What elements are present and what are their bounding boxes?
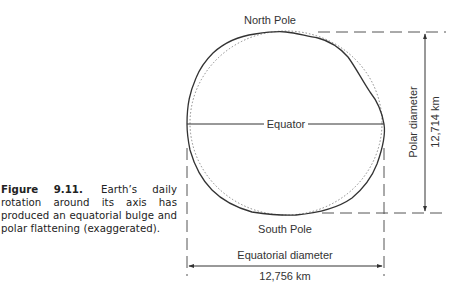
north-pole-label: North Pole xyxy=(244,14,296,26)
earth-shape-diagram: Equator North Pole South Pole Polar diam… xyxy=(0,0,472,298)
south-pole-label: South Pole xyxy=(258,223,312,235)
equatorial-diameter-label: Equatorial diameter xyxy=(237,249,333,261)
equatorial-diameter-value: 12,756 km xyxy=(259,270,310,282)
equator-label: Equator xyxy=(267,118,306,130)
polar-diameter-label: Polar diameter xyxy=(407,86,419,158)
polar-diameter-value: 12,714 km xyxy=(429,96,441,147)
